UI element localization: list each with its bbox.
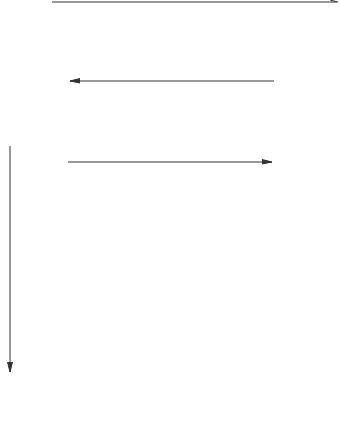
middle-row-arrow-left: [68, 78, 274, 84]
middle-row-arrow-right: [68, 159, 274, 165]
top-row-arrow: [52, 0, 340, 6]
quilt-assembly-arrow-down: [7, 146, 13, 374]
